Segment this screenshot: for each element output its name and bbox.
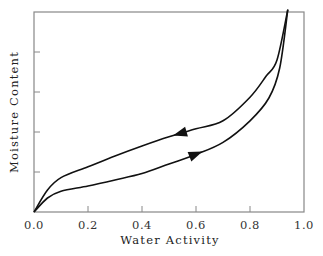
adsorption-curve xyxy=(34,10,288,212)
plot-border xyxy=(34,12,304,212)
x-tick-label: 0.8 xyxy=(240,218,260,232)
x-tick-labels: 0.00.20.40.60.81.0 xyxy=(24,218,314,232)
plot-frame xyxy=(34,12,304,212)
curves xyxy=(34,10,288,212)
arrow-left-icon xyxy=(173,127,188,137)
desorption-curve xyxy=(34,10,288,212)
x-tick-label: 0.2 xyxy=(78,218,98,232)
axis-ticks xyxy=(34,52,250,212)
x-tick-label: 0.6 xyxy=(186,218,206,232)
x-axis-label: Water Activity xyxy=(120,233,219,247)
x-tick-label: 0.0 xyxy=(24,218,44,232)
x-tick-label: 0.4 xyxy=(132,218,152,232)
y-axis-label: Moisture Content xyxy=(7,51,21,173)
arrow-right-icon xyxy=(188,152,203,162)
x-tick-label: 1.0 xyxy=(294,218,314,232)
hysteresis-chart: 0.00.20.40.60.81.0 Water Activity Moistu… xyxy=(0,0,323,256)
